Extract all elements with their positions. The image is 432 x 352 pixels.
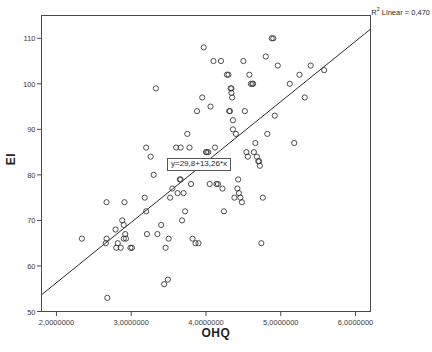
x-tick-label: 2,0000000	[39, 318, 74, 327]
data-point	[122, 200, 127, 205]
data-point	[165, 277, 170, 282]
data-point	[179, 218, 184, 223]
regression-equation-label: y=29,8+13,26*x	[167, 158, 231, 171]
data-point	[155, 231, 160, 236]
data-point	[302, 95, 307, 100]
data-point	[287, 81, 292, 86]
data-point	[247, 72, 252, 77]
data-point	[175, 191, 180, 196]
data-point	[322, 68, 327, 73]
data-point	[233, 131, 238, 136]
data-point	[208, 104, 213, 109]
data-point	[148, 154, 153, 159]
data-point	[181, 191, 186, 196]
data-point	[263, 54, 268, 59]
data-point	[212, 145, 217, 150]
data-point	[272, 113, 277, 118]
data-point	[292, 140, 297, 145]
data-point	[200, 95, 205, 100]
y-tick-label: 90	[18, 125, 36, 134]
data-point	[201, 45, 206, 50]
data-point	[79, 236, 84, 241]
data-point	[166, 236, 171, 241]
data-point	[230, 118, 235, 123]
data-point	[188, 181, 193, 186]
data-point	[239, 200, 244, 205]
data-point	[163, 245, 168, 250]
data-point	[253, 140, 258, 145]
data-point	[151, 172, 156, 177]
data-point	[308, 63, 313, 68]
data-point	[105, 295, 110, 300]
data-point	[104, 200, 109, 205]
data-point	[218, 58, 223, 63]
y-axis-title: EI	[4, 139, 18, 179]
y-tick-label: 80	[18, 170, 36, 179]
y-tick-label: 100	[18, 79, 36, 88]
data-point	[275, 63, 280, 68]
data-point	[232, 195, 237, 200]
data-point	[245, 154, 250, 159]
x-tick-label: 4,0000000	[188, 318, 223, 327]
x-tick-label: 3,0000000	[113, 318, 148, 327]
data-point	[144, 145, 149, 150]
plot-canvas	[0, 0, 432, 352]
data-point	[185, 131, 190, 136]
data-point	[221, 209, 226, 214]
data-point	[236, 177, 241, 182]
data-point	[121, 222, 126, 227]
data-point	[259, 241, 264, 246]
data-point	[297, 72, 302, 77]
data-point	[265, 131, 270, 136]
x-tick-label: 5,0000000	[263, 318, 298, 327]
y-tick-label: 60	[18, 261, 36, 270]
data-point	[211, 58, 216, 63]
data-point	[162, 282, 167, 287]
data-point	[144, 231, 149, 236]
r-squared-annotation: R2 Linear = 0,470	[371, 6, 430, 17]
r-squared-value-text: Linear = 0,470	[380, 8, 430, 17]
data-point	[168, 195, 173, 200]
data-point	[182, 209, 187, 214]
y-tick-label: 70	[18, 216, 36, 225]
x-axis-title: OHQ	[0, 326, 432, 340]
data-point	[113, 227, 118, 232]
data-point	[242, 109, 247, 114]
data-point	[159, 222, 164, 227]
data-point	[220, 186, 225, 191]
data-point	[153, 86, 158, 91]
data-point	[207, 181, 212, 186]
data-point	[194, 109, 199, 114]
scatter-plot-figure: OHQ EI 2,00000003,00000004,00000005,0000…	[0, 0, 432, 352]
data-point	[241, 58, 246, 63]
data-point	[260, 195, 265, 200]
y-tick-label: 50	[18, 307, 36, 316]
data-point	[142, 195, 147, 200]
x-tick-label: 6,0000000	[338, 318, 373, 327]
data-point	[187, 145, 192, 150]
y-tick-label: 110	[18, 34, 36, 43]
